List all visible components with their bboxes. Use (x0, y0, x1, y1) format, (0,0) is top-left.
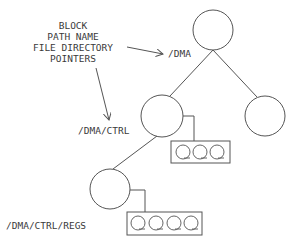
pointer-block-regs-items (131, 216, 198, 230)
arrow-to-ctrl-path (96, 68, 109, 120)
path-label-ctrl: /DMA/CTRL (78, 125, 130, 136)
node-ctrl-circle (141, 95, 183, 137)
pointer-block-ctrl (171, 141, 230, 163)
register-pointer-icon (184, 216, 198, 230)
node-root-circle (193, 10, 233, 50)
legend-line-file-directory: FILE DIRECTORY (33, 42, 113, 53)
edge-root-right (213, 50, 257, 97)
register-pointer-icon (176, 145, 190, 159)
path-label-regs: /DMA/CTRL/REGS (6, 220, 86, 231)
legend-line-path-name: PATH NAME (47, 31, 99, 42)
register-pointer-icon (210, 145, 224, 159)
node-right-circle (245, 96, 285, 136)
arrow-to-root-path (127, 47, 163, 54)
register-pointer-icon (131, 216, 145, 230)
path-label-root: /DMA (168, 48, 191, 59)
connector-ctrl-block (183, 116, 194, 141)
connector-regs-block (130, 190, 145, 212)
register-pointer-icon (193, 145, 207, 159)
register-pointer-icon (167, 216, 181, 230)
node-regs-circle (90, 169, 130, 209)
pointer-block-regs (127, 212, 202, 235)
edge-ctrl-regs (113, 136, 157, 169)
file-directory-tree-diagram: BLOCK PATH NAME FILE DIRECTORY POINTERS … (0, 0, 301, 244)
legend-line-pointers: POINTERS (50, 53, 96, 64)
register-pointer-icon (149, 216, 163, 230)
legend-line-block: BLOCK (59, 20, 88, 31)
legend-block: BLOCK PATH NAME FILE DIRECTORY POINTERS (33, 20, 113, 64)
pointer-block-ctrl-items (176, 145, 224, 159)
